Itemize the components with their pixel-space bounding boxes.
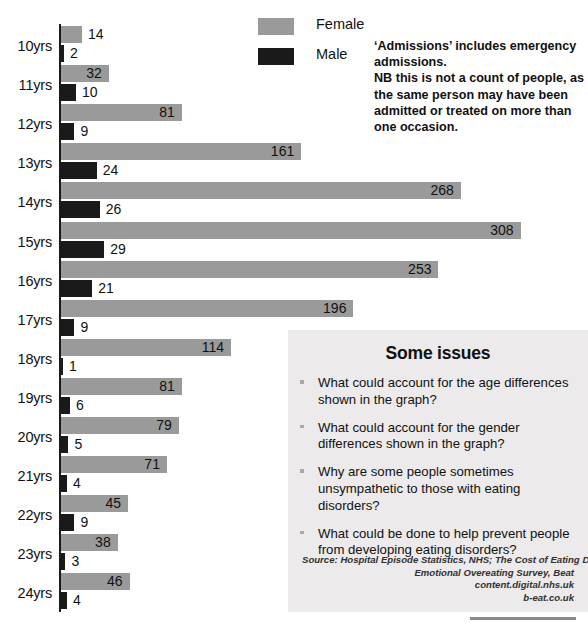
issue-text: What could account for the genderdiffere… [318,420,580,453]
source-attribution: Source: Hospital Episode Statistics, NHS… [302,554,574,604]
bar-value-label: 161 [61,143,294,160]
note-line: one occasion. [374,119,586,135]
category-label: 22yrs [0,507,52,523]
source-line: b-eat.co.uk [302,592,574,605]
issue-text-line: What could account for the gender [318,420,580,437]
source-line: content.digital.nhs.uk [302,579,574,592]
note-line: the same person may have been [374,87,586,103]
bar-value-label: 9 [80,514,88,531]
category-label: 21yrs [0,468,52,484]
bar-value-label: 196 [61,300,346,317]
bar-value-label: 4 [73,592,81,609]
bar-group: 14yrs26826 [0,182,588,221]
category-label: 11yrs [0,77,52,93]
bar-value-label: 1 [69,358,77,375]
bar-male [61,123,74,140]
female-swatch-icon [258,18,294,35]
source-line: Emotional Overeating Survey, Beat [302,567,574,580]
issue-bullet-item: What could account for the genderdiffere… [318,420,580,453]
legend-label-female: Female [316,16,364,32]
bar-value-label: 5 [74,436,82,453]
bar-value-label: 3 [71,553,79,570]
issue-text: What could account for the age differenc… [318,375,580,408]
bullet-dot-icon [300,531,304,535]
admissions-note: ‘Admissions’ includes emergencyadmission… [374,38,586,135]
category-label: 15yrs [0,234,52,250]
category-label: 20yrs [0,429,52,445]
bar-male [61,241,104,258]
bar-value-label: 81 [61,378,175,395]
issue-bullet-item: Why are some people sometimesunsympathet… [318,464,580,514]
bar-value-label: 6 [76,397,84,414]
bar-value-label: 26 [106,201,122,218]
some-issues-panel: Some issues What could account for the a… [288,330,588,612]
bar-value-label: 32 [61,65,102,82]
bar-value-label: 14 [88,26,104,43]
issue-text: Why are some people sometimesunsympathet… [318,464,580,514]
issue-text-line: unsympathetic to those with eating [318,481,580,498]
bar-female [61,26,82,43]
legend-label-male: Male [316,46,347,62]
category-label: 17yrs [0,312,52,328]
bar-group: 15yrs30829 [0,222,588,261]
bar-value-label: 24 [103,162,119,179]
bar-value-label: 21 [98,280,114,297]
bottom-rule-divider [470,617,576,620]
male-swatch-icon [258,48,294,65]
bar-male [61,592,67,609]
bullet-dot-icon [300,469,304,473]
bar-value-label: 45 [61,495,121,512]
bar-value-label: 114 [61,339,224,356]
bar-value-label: 4 [73,475,81,492]
category-label: 16yrs [0,273,52,289]
bar-value-label: 2 [70,45,78,62]
bar-male [61,553,65,570]
category-label: 10yrs [0,38,52,54]
bar-value-label: 10 [82,84,98,101]
bar-male [61,358,63,375]
note-line: NB this is not a count of people, as [374,70,586,86]
category-label: 13yrs [0,155,52,171]
bar-value-label: 71 [61,456,160,473]
bar-male [61,397,70,414]
bar-value-label: 79 [61,417,172,434]
issue-text-line: Why are some people sometimes [318,464,580,481]
issue-text-line: disorders? [318,498,580,515]
bar-value-label: 9 [80,123,88,140]
bar-male [61,162,97,179]
bar-value-label: 29 [110,241,126,258]
note-line: admitted or treated on more than [374,103,586,119]
bar-group: 16yrs25321 [0,261,588,300]
issue-text-line: differences shown in the graph? [318,436,580,453]
issue-bullet-item: What could account for the age differenc… [318,375,580,408]
source-line: Source: Hospital Episode Statistics, NHS… [302,554,574,567]
bar-value-label: 308 [61,222,514,239]
bar-male [61,319,74,336]
note-line: ‘Admissions’ includes emergency [374,38,586,54]
bar-male [61,280,92,297]
issue-text-line: What could be done to help prevent peopl… [318,526,580,543]
category-label: 23yrs [0,546,52,562]
category-label: 18yrs [0,351,52,367]
bar-male [61,201,100,218]
bullet-dot-icon [300,380,304,384]
category-label: 24yrs [0,585,52,601]
bar-value-label: 9 [80,319,88,336]
bar-value-label: 46 [61,573,123,590]
issue-text-line: What could account for the age differenc… [318,375,580,392]
bar-male [61,84,76,101]
bar-value-label: 268 [61,182,454,199]
bar-male [61,45,64,62]
category-label: 12yrs [0,116,52,132]
bar-group: 13yrs16124 [0,143,588,182]
bar-value-label: 81 [61,104,175,121]
bar-value-label: 38 [61,534,111,551]
category-label: 19yrs [0,390,52,406]
issues-panel-title: Some issues [288,343,588,364]
note-line: admissions. [374,54,586,70]
bar-male [61,475,67,492]
bar-value-label: 253 [61,261,431,278]
bar-male [61,436,68,453]
category-label: 14yrs [0,194,52,210]
bullet-dot-icon [300,425,304,429]
